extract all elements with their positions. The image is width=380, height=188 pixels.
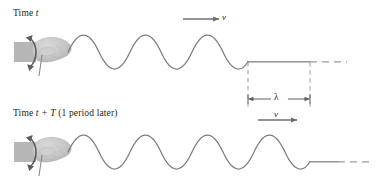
hand-icon-top xyxy=(14,37,71,76)
panel-bottom xyxy=(14,120,373,176)
wavelength-dimension-icon xyxy=(248,62,310,108)
panel-title-bottom-symbol: t + T xyxy=(36,108,56,118)
panel-top xyxy=(14,19,347,76)
hand-icon-bottom xyxy=(14,137,71,176)
velocity-label-bottom: v xyxy=(274,110,278,119)
velocity-label-top: v xyxy=(222,13,226,22)
wave-propagation-figure: Time t v Time t + T (1 period later) v λ xyxy=(0,0,380,188)
wave-curve-bottom xyxy=(68,135,310,169)
panel-title-bottom-prefix: Time xyxy=(13,108,36,118)
panel-title-top-symbol: t xyxy=(36,8,39,18)
panel-title-top-prefix: Time xyxy=(13,8,36,18)
figure-canvas xyxy=(0,0,380,188)
wave-curve-top xyxy=(68,35,248,69)
wavelength-label: λ xyxy=(274,93,279,103)
panel-title-bottom-suffix: (1 period later) xyxy=(56,108,118,118)
panel-title-top: Time t xyxy=(13,9,39,19)
panel-title-bottom: Time t + T (1 period later) xyxy=(13,109,118,119)
